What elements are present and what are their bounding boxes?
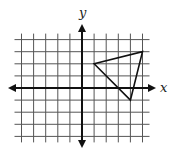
- y-axis-up-arrow-icon: [78, 24, 86, 32]
- x-axis-left-arrow-icon: [8, 84, 16, 92]
- x-axis-right-arrow-icon: [148, 84, 156, 92]
- y-axis-down-arrow-icon: [78, 140, 86, 148]
- x-axis-label: x: [160, 80, 168, 95]
- y-axis-label: y: [78, 5, 87, 20]
- coordinate-plane: x y: [0, 0, 175, 157]
- y-axis: [78, 24, 86, 148]
